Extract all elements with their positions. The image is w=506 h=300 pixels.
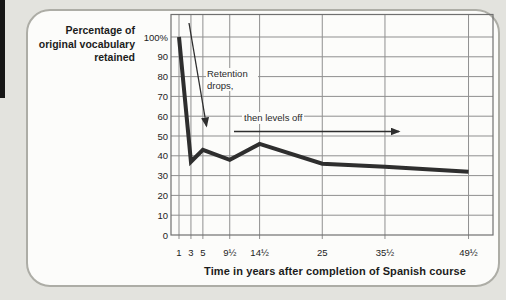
y-axis-title-line: Percentage of bbox=[18, 24, 135, 38]
annotation-retention-drops: Retention drops, bbox=[206, 68, 258, 91]
figure-page: Percentage of original vocabulary retain… bbox=[0, 0, 506, 300]
y-axis-title-line: original vocabulary bbox=[18, 38, 135, 52]
annotation-then-levels-off: then levels off bbox=[242, 112, 304, 124]
y-axis-title: Percentage of original vocabulary retain… bbox=[18, 24, 135, 65]
x-axis-title: Time in years after completion of Spanis… bbox=[177, 265, 493, 277]
y-axis-title-line: retained bbox=[18, 51, 135, 65]
